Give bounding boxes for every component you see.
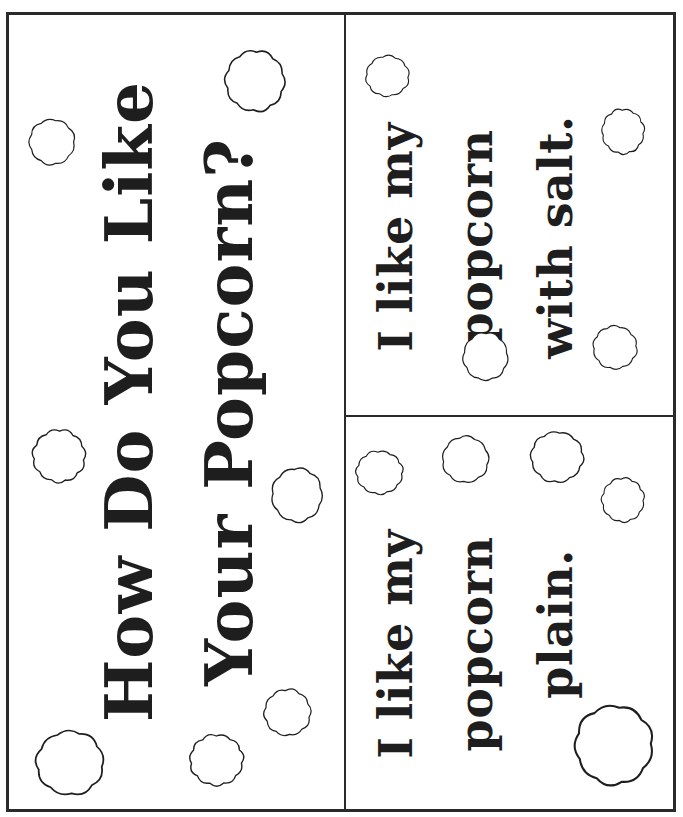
- popcorn-puff-icon: [598, 474, 648, 526]
- popcorn-puff-icon: [185, 730, 248, 790]
- popcorn-puff-icon: [568, 698, 660, 792]
- popcorn-puff-icon: [267, 463, 327, 527]
- popcorn-puff-icon: [30, 725, 110, 801]
- popcorn-puff-icon: [220, 45, 290, 117]
- salt-line-3: with salt.: [529, 87, 583, 387]
- popcorn-puff-icon: [598, 105, 648, 158]
- popcorn-puff-icon: [28, 425, 90, 487]
- salt-line-1: I like my: [369, 87, 423, 387]
- title-line-1: How Do You Like: [92, 102, 166, 722]
- popcorn-puff-icon: [438, 432, 493, 487]
- popcorn-puff-icon: [459, 328, 512, 385]
- cropped-header-text: [0, 0, 683, 10]
- popcorn-puff-icon: [362, 52, 413, 100]
- plain-line-1: I like my: [369, 494, 423, 794]
- plain-line-2: popcorn: [449, 494, 503, 794]
- popcorn-sign-sheet: How Do You Like Your Popcorn? I like my …: [6, 12, 676, 812]
- title-line-2: Your Popcorn?: [192, 102, 266, 722]
- popcorn-puff-icon: [25, 115, 79, 169]
- popcorn-puff-icon: [352, 447, 407, 498]
- popcorn-puff-icon: [589, 322, 641, 373]
- popcorn-puff-icon: [526, 427, 588, 487]
- popcorn-puff-icon: [260, 685, 315, 740]
